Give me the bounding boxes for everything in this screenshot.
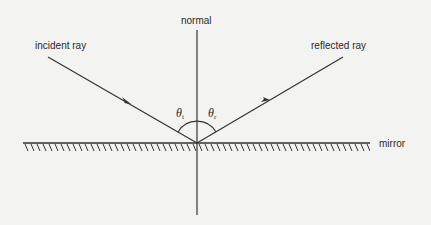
mirror-label: mirror	[379, 139, 405, 149]
incident-angle-label: θi	[176, 107, 184, 121]
reflected-ray	[197, 57, 343, 143]
incident-ray	[48, 57, 197, 143]
normal-label: normal	[181, 16, 212, 26]
reflection-diagram: normal incident ray reflected ray mirror…	[0, 0, 431, 225]
reflected-angle-label: θr	[208, 107, 216, 121]
incident-ray-label: incident ray	[35, 41, 86, 51]
reflected-ray-label: reflected ray	[311, 41, 366, 51]
